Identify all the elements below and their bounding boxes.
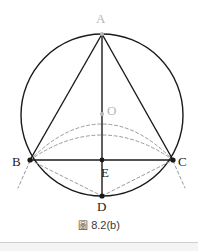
geometry-diagram [0, 0, 198, 214]
figure-caption-marker: 圖 [78, 220, 88, 231]
point-label-b: B [12, 155, 21, 168]
figure-caption-number: 8.2(b) [91, 219, 120, 231]
point-label-a: A [96, 12, 105, 25]
point-D-dot [99, 193, 104, 198]
geometry-figure: A O B C E D 圖 8.2(b) [0, 0, 198, 251]
point-A-dot [100, 32, 104, 36]
point-label-e: E [101, 166, 109, 179]
point-B-dot [27, 157, 32, 162]
point-E-dot [100, 158, 105, 163]
point-label-c: C [178, 155, 187, 168]
footer-band [0, 243, 198, 251]
point-C-dot [170, 157, 175, 162]
segment-BD [30, 160, 102, 196]
segment-DC [102, 160, 173, 196]
figure-caption: 圖 8.2(b) [0, 218, 198, 233]
point-label-d: D [97, 200, 106, 213]
point-label-o: O [107, 104, 116, 117]
point-O-dot [100, 112, 104, 116]
